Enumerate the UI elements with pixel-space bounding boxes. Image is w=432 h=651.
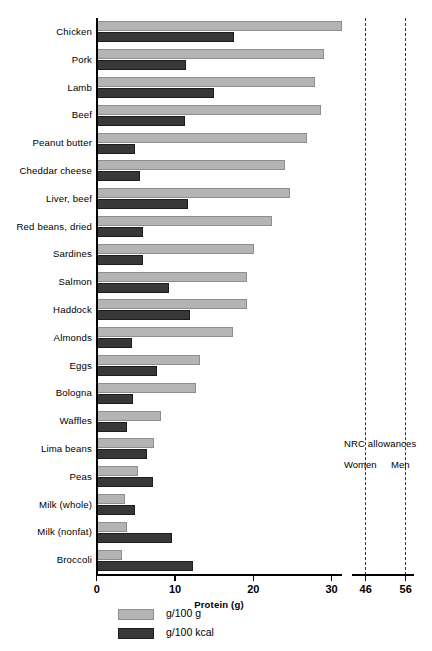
nrc-axis-tick-label: 56 [400,583,412,595]
bar-light [97,21,342,31]
bar-group [97,438,342,459]
bar-dark [97,561,193,571]
y-axis-label: Milk (nonfat) [0,526,92,537]
nrc-label-women: Women [344,459,377,470]
bar-light [97,522,127,532]
nrc-label-men: Men [391,459,409,470]
x-axis-tick [96,574,97,581]
y-axis-label: Liver, beef [0,193,92,204]
bar-rows [97,18,342,575]
y-axis-label: Red beans, dried [0,221,92,232]
nrc-panel-title: NRC allowances [344,438,416,449]
bar-light [97,327,233,337]
bar-group [97,105,342,126]
bar-light [97,216,272,226]
bar-group [97,522,342,543]
y-axis-label: Almonds [0,332,92,343]
protein-content-bar-chart: ChickenPorkLambBeefPeanut butterCheddar … [0,0,432,651]
bar-light [97,77,315,87]
bar-dark [97,227,143,237]
bar-group [97,49,342,70]
bar-light [97,160,285,170]
y-axis-label: Lamb [0,82,92,93]
bar-dark [97,533,172,543]
bar-group [97,383,342,404]
bar-light [97,550,122,560]
bar-group [97,411,342,432]
bar-dark [97,255,143,265]
bar-group [97,216,342,237]
bar-group [97,494,342,515]
bar-light [97,188,290,198]
nrc-axis-tick-label: 46 [360,583,372,595]
y-axis-label: Beef [0,109,92,120]
bar-dark [97,477,153,487]
legend-label-light: g/100 g [166,607,201,619]
bar-group [97,160,342,181]
bar-dark [97,199,188,209]
bar-dark [97,283,169,293]
bar-light [97,383,196,393]
bar-dark [97,366,157,376]
nrc-axis-tick [365,574,366,581]
y-axis-label: Broccoli [0,554,92,565]
y-axis-label: Cheddar cheese [0,165,92,176]
y-axis-label: Peas [0,471,92,482]
y-axis-label: Haddock [0,304,92,315]
bar-light [97,411,161,421]
x-axis-tick [331,574,332,581]
bar-light [97,272,247,282]
bar-light [97,355,200,365]
bar-group [97,188,342,209]
x-axis-tick-label: 30 [325,583,337,595]
bar-dark [97,310,190,320]
plot-area [97,18,342,575]
bar-group [97,272,342,293]
bar-dark [97,116,185,126]
legend-swatch-dark [118,628,154,639]
bar-light [97,49,324,59]
y-axis-label: Pork [0,54,92,65]
bar-dark [97,32,234,42]
bar-group [97,299,342,320]
bar-group [97,327,342,348]
bar-light [97,105,321,115]
bar-light [97,244,254,254]
x-axis-tick [253,574,254,581]
y-axis-label: Milk (whole) [0,499,92,510]
y-axis-label: Eggs [0,360,92,371]
bar-group [97,466,342,487]
bar-dark [97,144,135,154]
bar-light [97,438,154,448]
y-axis-line [96,18,98,575]
legend-swatch-light [118,609,154,620]
bar-dark [97,338,132,348]
bar-light [97,133,307,143]
y-axis-label: Waffles [0,415,92,426]
y-axis-label: Salmon [0,276,92,287]
y-axis-label: Sardines [0,248,92,259]
nrc-axis-tick [405,574,406,581]
bar-group [97,77,342,98]
x-axis-tick [174,574,175,581]
bar-group [97,355,342,376]
bar-group [97,244,342,265]
y-axis-label: Chicken [0,26,92,37]
bar-dark [97,171,140,181]
nrc-dashed-line-women [365,18,366,575]
bar-dark [97,88,214,98]
y-axis-label: Peanut butter [0,137,92,148]
x-axis-tick-label: 10 [169,583,181,595]
legend-label-dark: g/100 kcal [166,626,214,638]
x-axis-tick-label: 0 [94,583,100,595]
bar-light [97,494,125,504]
bar-light [97,299,247,309]
bar-dark [97,60,186,70]
bar-dark [97,394,133,404]
nrc-dashed-line-men [405,18,406,575]
y-axis-label: Lima beans [0,443,92,454]
bar-group [97,550,342,571]
bar-dark [97,449,147,459]
y-axis-category-labels: ChickenPorkLambBeefPeanut butterCheddar … [0,0,92,651]
bar-light [97,466,138,476]
